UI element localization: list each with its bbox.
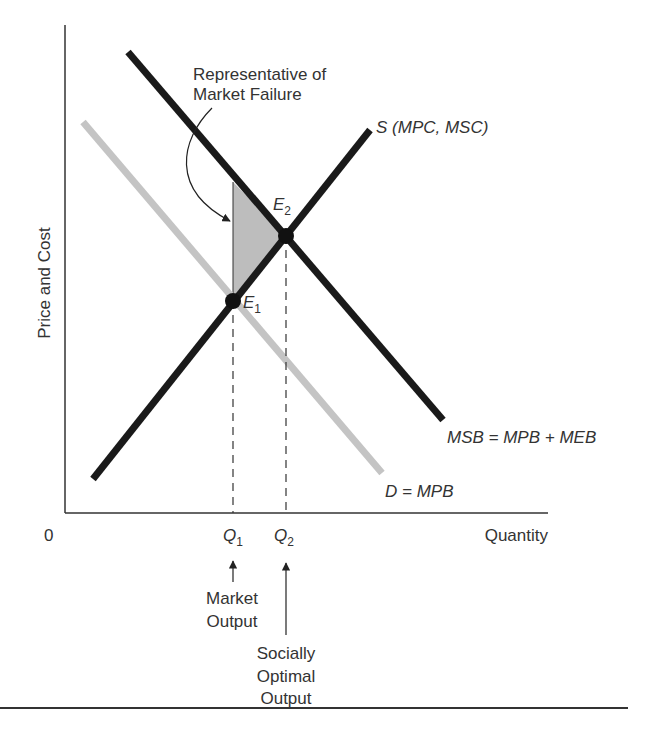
failure-label-line2: Market Failure xyxy=(193,85,302,104)
bottom-rule xyxy=(0,707,628,709)
e1-point xyxy=(225,293,241,309)
social-output-line1: Socially xyxy=(257,644,316,663)
externality-diagram: Price and Cost 0 Quantity Representative… xyxy=(0,0,651,737)
demand-label: D = MPB xyxy=(385,482,454,501)
e2-label: E2 xyxy=(273,195,291,218)
origin-label: 0 xyxy=(44,526,53,545)
e2-point xyxy=(278,228,294,244)
q1-label: Q1 xyxy=(223,526,243,549)
social-output-line3: Output xyxy=(260,689,311,708)
social-output-line2: Optimal xyxy=(257,667,316,686)
supply-label: S (MPC, MSC) xyxy=(376,118,488,137)
failure-label-line1: Representative of xyxy=(193,65,327,84)
market-output-line1: Market xyxy=(206,589,258,608)
q2-label: Q2 xyxy=(274,526,294,549)
market-output-line2: Output xyxy=(206,612,257,631)
y-axis-label: Price and Cost xyxy=(35,227,54,339)
msb-label: MSB = MPB + MEB xyxy=(447,428,596,447)
x-axis-label: Quantity xyxy=(485,526,549,545)
